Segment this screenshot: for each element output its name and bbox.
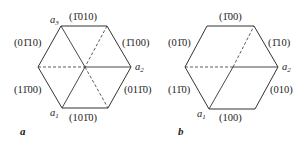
edge-label-lower-right: (010): [270, 84, 293, 96]
axis-a3-solid: [61, 26, 85, 67]
edge-label-upper-left: (01̄0): [168, 37, 191, 49]
vertex-label-a1: a1: [50, 107, 59, 120]
edge-label-bottom: (100): [219, 112, 242, 124]
edge-label-top: (1̄010): [69, 11, 97, 23]
axis-a1-solid: [62, 67, 85, 108]
edge-label-lower-left: (11̄00): [14, 84, 42, 96]
edge-label-lower-left: (11̄0): [168, 84, 191, 96]
axis-a1-dashed: [85, 26, 107, 67]
vertex-label-a2: a2: [135, 61, 144, 74]
panel-a: a3 (1̄010) (01̄10) (1̄100) a2 (11̄00) (0…: [14, 11, 152, 137]
panel-b: (1̄00) (01̄0) (1̄10) a2 (11̄0) (010) a1 …: [168, 11, 293, 137]
edge-label-lower-right: (011̄0): [124, 84, 152, 96]
edge-label-upper-right: (1̄10): [268, 37, 291, 49]
panel-label-a: a: [20, 125, 26, 137]
diagram-canvas: a3 (1̄010) (01̄10) (1̄100) a2 (11̄00) (0…: [0, 0, 306, 145]
edge-label-bottom: (101̄0): [69, 112, 97, 124]
hexagon-b: [185, 26, 278, 109]
edge-label-upper-left: (01̄10): [14, 37, 42, 49]
edge-label-top: (1̄00): [219, 11, 242, 23]
edge-label-upper-right: (1̄100): [122, 37, 150, 49]
vertex-label-a1: a1: [197, 108, 206, 121]
axis-a1-dashed: [233, 26, 254, 67]
axis-a1-solid: [209, 67, 233, 109]
vertex-label-a2: a2: [282, 61, 291, 74]
panel-label-b: b: [178, 125, 184, 137]
vertex-label-a3: a3: [50, 14, 59, 27]
axis-a3-dashed: [85, 67, 108, 108]
